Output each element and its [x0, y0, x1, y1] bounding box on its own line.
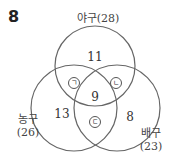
volleyball-count: (23) — [136, 140, 166, 153]
volleyball-only-value: 8 — [126, 110, 134, 124]
basketball-count: (26) — [14, 126, 42, 139]
basketball-label: 농구 (26) — [14, 113, 42, 139]
basketball-only-value: 13 — [54, 107, 69, 121]
region-marker-digeut: ㄷ — [89, 116, 101, 128]
region-marker-giyeok: ㄱ — [68, 77, 80, 89]
region-marker-nieun: ㄴ — [110, 77, 122, 89]
baseball-label: 야구(28) — [73, 12, 123, 25]
basketball-name: 농구 — [14, 113, 42, 126]
volleyball-label: 배구 (23) — [136, 127, 166, 153]
volleyball-name: 배구 — [136, 127, 166, 140]
baseball-only-value: 11 — [87, 50, 102, 64]
all-three-value: 9 — [91, 90, 99, 104]
